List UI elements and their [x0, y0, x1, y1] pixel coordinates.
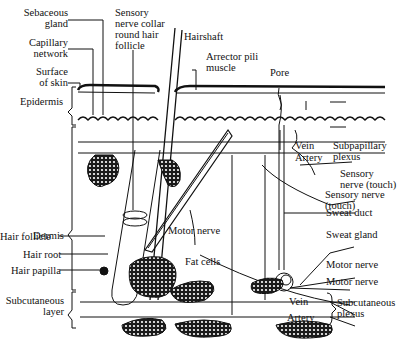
label-sebaceous-gland: Sebaceousgland	[18, 7, 68, 29]
label-hair-root: Hair root	[23, 249, 61, 260]
label-vein-lower: Vein	[289, 296, 308, 307]
skin-surface	[78, 85, 385, 93]
label-arrector-pili: Arrector pilimuscle	[206, 51, 258, 73]
label-artery-lower: Artery	[287, 312, 314, 323]
label-subcutaneous-plexus: Subcutaneousplexus	[337, 297, 395, 319]
fat-cell	[276, 321, 332, 338]
epidermis-base	[78, 117, 385, 120]
fat-cell	[122, 318, 166, 336]
fat-cell	[251, 278, 283, 293]
label-sensory-nerve-touch-1: Sensorynerve (touch)	[340, 168, 396, 190]
label-motor-nerve-right-2: Motor nerve	[326, 276, 378, 287]
label-sensory-nerve-collar: Sensorynerve collarround hairfollicle	[115, 7, 165, 51]
label-subpapillary-plexus: Subpapillaryplexus	[333, 140, 387, 162]
fat-cell	[175, 320, 231, 337]
label-pore: Pore	[270, 67, 289, 78]
label-sweat-duct: Sweat duct	[326, 207, 372, 218]
label-capillary-network: Capillarynetwork	[18, 37, 68, 59]
label-motor-nerve-center: Motor nerve	[168, 225, 220, 236]
label-hairshaft: Hairshaft	[184, 31, 223, 42]
label-motor-nerve-right-1: Motor nerve	[326, 259, 378, 270]
label-vein-upper: Vein	[295, 140, 314, 151]
label-hair-follicle: Hair follicle	[0, 231, 51, 242]
label-artery-upper: Artery	[295, 152, 322, 163]
label-sweat-gland: Sweat gland	[326, 229, 378, 240]
skin-diagram: Sebaceousgland Capillarynetwork Surfaceo…	[0, 0, 405, 348]
label-fat-cells: Fat cells	[185, 256, 220, 267]
fat-cell	[129, 257, 176, 298]
label-epidermis: Epidermis	[20, 96, 63, 107]
label-hair-papilla: Hair papilla	[11, 265, 61, 276]
label-surface-of-skin: Surfaceof skin	[18, 66, 68, 88]
label-subcutaneous-layer: Subcutaneouslayer	[4, 295, 64, 317]
fat-cell	[170, 281, 214, 302]
